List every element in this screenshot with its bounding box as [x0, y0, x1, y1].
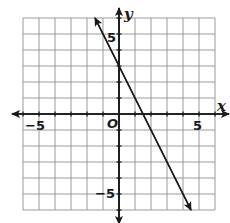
y-tick-label-pos5: 5	[107, 30, 116, 45]
y-axis-label: y	[123, 5, 134, 23]
x-tick-label-neg5: −5	[25, 118, 45, 133]
coordinate-plane: x y O −5 5 5 −5	[0, 0, 230, 223]
x-axis-label: x	[216, 97, 227, 115]
x-tick-label-pos5: 5	[193, 118, 202, 133]
origin-label: O	[107, 116, 118, 131]
axes	[12, 8, 229, 223]
y-tick-label-neg5: −5	[95, 186, 115, 201]
